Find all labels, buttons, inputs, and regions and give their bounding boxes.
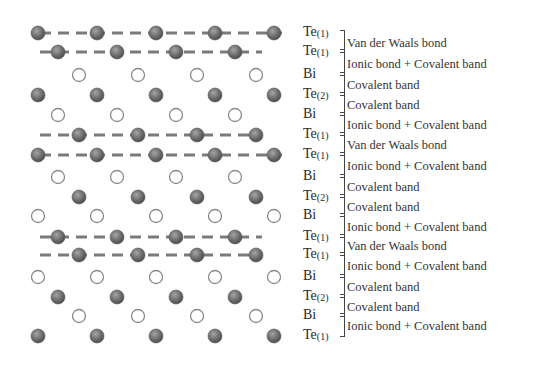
bi-atom: [191, 69, 204, 82]
atom-layer-bi: [52, 171, 242, 184]
te-atom: [228, 230, 242, 244]
atom-layer-te: [40, 45, 262, 59]
element-index: (1): [317, 331, 329, 342]
bi-atom: [52, 171, 65, 184]
te-atom: [249, 128, 263, 142]
element-index: (1): [317, 47, 329, 58]
atom-layer-te: [31, 88, 281, 102]
element-symbol: Te: [303, 246, 317, 261]
element-symbol: Te: [303, 188, 317, 203]
element-symbol: Bi: [303, 106, 316, 121]
bond-label: Covalent band: [347, 201, 420, 214]
te-atom: [149, 26, 163, 40]
bi-atom: [268, 210, 281, 223]
element-symbol: Bi: [303, 168, 316, 183]
bi-atom: [209, 271, 222, 284]
bond-label: Covalent band: [347, 181, 420, 194]
layer-label: Bi: [303, 269, 316, 283]
atom-layer-te: [31, 329, 281, 343]
bracket-icon: [340, 313, 345, 337]
atom-layer-te: [40, 248, 263, 262]
bond-label: Covalent band: [347, 79, 420, 92]
element-symbol: Te: [303, 228, 317, 243]
bond-label: Covalent band: [347, 301, 420, 314]
te-atom: [267, 329, 281, 343]
te-atom: [169, 230, 183, 244]
bi-atom: [91, 271, 104, 284]
layer-label: Te(1): [303, 147, 328, 162]
te-atom: [51, 290, 65, 304]
element-index: (2): [317, 292, 329, 303]
te-atom: [51, 45, 65, 59]
element-symbol: Bi: [303, 66, 316, 81]
te-atom: [190, 248, 204, 262]
atom-layer-te: [31, 26, 282, 40]
bond-label: Van der Waals bond: [347, 139, 447, 152]
layer-label: Bi: [303, 208, 316, 222]
te-atom: [110, 230, 124, 244]
element-symbol: Te: [303, 146, 317, 161]
te-atom: [31, 148, 45, 162]
layer-label: Te(1): [303, 229, 328, 244]
layer-label: Bi: [303, 308, 316, 322]
atom-layer-bi: [32, 271, 281, 284]
te-atom: [90, 329, 104, 343]
bi-atom: [111, 171, 124, 184]
bond-label: Ionic bond + Covalent band: [347, 221, 487, 234]
bi-atom: [229, 171, 242, 184]
te-atom: [31, 88, 45, 102]
te-atom: [90, 26, 104, 40]
bi-atom: [132, 69, 145, 82]
te-atom: [31, 26, 45, 40]
layer-label: Te(2): [303, 87, 328, 102]
bi-atom: [209, 210, 222, 223]
bond-label: Ionic bond + Covalent band: [347, 260, 487, 273]
te-atom: [190, 190, 204, 204]
te-atom: [149, 329, 163, 343]
atom-layer-te: [40, 128, 263, 142]
atom-layer-bi: [73, 310, 263, 323]
bi-atom: [32, 271, 45, 284]
element-index: (2): [317, 192, 329, 203]
te-atom: [90, 88, 104, 102]
te-atom: [208, 88, 222, 102]
atom-layer-te: [31, 148, 282, 162]
te-atom: [131, 128, 145, 142]
te-atom: [249, 190, 263, 204]
layer-label: Te(1): [303, 247, 328, 262]
element-index: (1): [317, 232, 329, 243]
element-symbol: Bi: [303, 207, 316, 222]
te-atom: [267, 88, 281, 102]
layer-label: Bi: [303, 67, 316, 81]
element-symbol: Bi: [303, 268, 316, 283]
atom-layer-te: [40, 230, 262, 244]
bi-atom: [73, 310, 86, 323]
layer-label: Te(2): [303, 289, 328, 304]
bond-label: Covalent band: [347, 99, 420, 112]
te-atom: [110, 45, 124, 59]
bi-atom: [73, 69, 86, 82]
te-atom: [72, 190, 86, 204]
element-index: (1): [317, 250, 329, 261]
te-atom: [72, 248, 86, 262]
bi-atom: [132, 310, 145, 323]
bond-label: Van der Waals bond: [347, 37, 447, 50]
te-atom: [208, 148, 222, 162]
te-atom: [208, 329, 222, 343]
te-atom: [169, 45, 183, 59]
te-atom: [267, 26, 281, 40]
bi-atom: [150, 210, 163, 223]
layer-label: Te(1): [303, 25, 328, 40]
bond-label: Ionic bond + Covalent band: [347, 160, 487, 173]
te-atom: [72, 128, 86, 142]
bi-atom: [250, 69, 263, 82]
layer-label: Bi: [303, 107, 316, 121]
element-symbol: Te: [303, 43, 317, 58]
element-symbol: Te: [303, 288, 317, 303]
bond-label: Ionic bond + Covalent band: [347, 119, 487, 132]
bi-atom: [111, 109, 124, 122]
te-atom: [149, 148, 163, 162]
bi-atom: [52, 109, 65, 122]
te-atom: [149, 88, 163, 102]
te-atom: [267, 148, 281, 162]
